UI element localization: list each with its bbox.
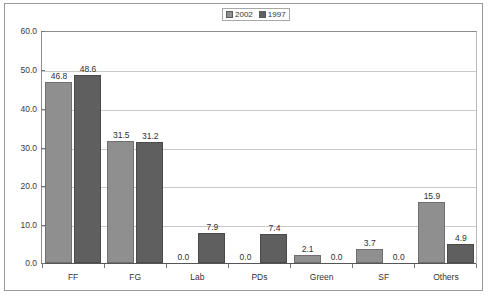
x-label-green: Green xyxy=(291,272,353,282)
bar-1997-lab[interactable] xyxy=(198,233,225,264)
bar-label-2002-lab: 0.0 xyxy=(163,252,203,262)
bar-group-lab: 0.0 7.9 xyxy=(166,31,228,263)
bar-1997-pds[interactable] xyxy=(260,234,287,263)
chart-legend: 2002 1997 xyxy=(222,8,290,21)
bar-label-1997-fg: 31.2 xyxy=(130,131,170,141)
x-label-sf: SF xyxy=(353,272,415,282)
bar-groups: 46.8 48.6 31.5 31.2 0.0 7.9 0.0 7.4 2.1 xyxy=(42,31,477,263)
x-axis-line xyxy=(42,263,476,264)
x-tick-mark-0 xyxy=(42,264,43,268)
y-tick-label-40: 40.0 xyxy=(20,104,37,114)
x-axis-labels: FF FG Lab PDs Green SF Others xyxy=(42,272,477,282)
y-tick-label-0: 0.0 xyxy=(25,258,37,268)
x-tick-mark-5 xyxy=(352,264,353,268)
x-label-pds: PDs xyxy=(228,272,290,282)
bar-label-1997-lab: 7.9 xyxy=(192,222,232,232)
x-tick-mark-7 xyxy=(476,264,477,268)
bar-2002-ff[interactable] xyxy=(45,82,72,263)
x-label-fg: FG xyxy=(104,272,166,282)
legend-item-1997: 1997 xyxy=(259,10,286,19)
bar-label-2002-sf: 3.7 xyxy=(350,238,390,248)
legend-label-2002: 2002 xyxy=(235,10,253,19)
bar-group-fg: 31.5 31.2 xyxy=(104,31,166,263)
x-tick-mark-2 xyxy=(166,264,167,268)
bar-1997-ff[interactable] xyxy=(74,75,101,263)
bar-label-2002-pds: 0.0 xyxy=(225,252,265,262)
x-label-lab: Lab xyxy=(166,272,228,282)
y-axis-labels: 60.0 50.0 40.0 30.0 20.0 10.0 0.0 xyxy=(3,31,37,264)
bar-group-ff: 46.8 48.6 xyxy=(42,31,104,263)
y-tick-label-30: 30.0 xyxy=(20,143,37,153)
bar-label-1997-sf: 0.0 xyxy=(379,252,419,262)
chart-container: 2002 1997 60.0 50.0 40.0 30.0 20.0 10.0 … xyxy=(0,0,491,299)
x-tick-mark-6 xyxy=(414,264,415,268)
y-tick-label-10: 10.0 xyxy=(20,220,37,230)
bar-group-pds: 0.0 7.4 xyxy=(228,31,290,263)
x-label-others: Others xyxy=(415,272,477,282)
legend-swatch-2002 xyxy=(226,11,233,18)
bar-group-sf: 3.7 0.0 xyxy=(353,31,415,263)
bar-label-1997-others: 4.9 xyxy=(441,233,481,243)
bar-group-green: 2.1 0.0 xyxy=(291,31,353,263)
bar-1997-fg[interactable] xyxy=(136,142,163,263)
legend-label-1997: 1997 xyxy=(268,10,286,19)
bar-group-others: 15.9 4.9 xyxy=(415,31,477,263)
legend-swatch-1997 xyxy=(259,11,266,18)
bar-label-1997-pds: 7.4 xyxy=(254,223,294,233)
y-tick-label-20: 20.0 xyxy=(20,181,37,191)
x-tick-mark-3 xyxy=(228,264,229,268)
bar-label-2002-others: 15.9 xyxy=(412,191,452,201)
legend-item-2002: 2002 xyxy=(226,10,253,19)
x-tick-mark-1 xyxy=(104,264,105,268)
y-tick-label-50: 50.0 xyxy=(20,65,37,75)
x-tick-mark-4 xyxy=(290,264,291,268)
bar-label-1997-ff: 48.6 xyxy=(68,64,108,74)
x-label-ff: FF xyxy=(42,272,104,282)
bar-2002-fg[interactable] xyxy=(107,141,134,263)
bar-1997-others[interactable] xyxy=(447,244,474,263)
bar-label-1997-green: 0.0 xyxy=(317,252,357,262)
y-tick-label-60: 60.0 xyxy=(20,26,37,36)
